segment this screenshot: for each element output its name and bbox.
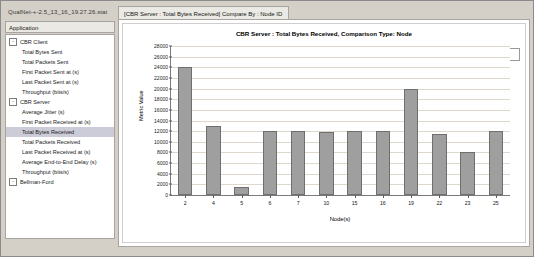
y-tick-label: 6000: [157, 160, 168, 166]
tree-item[interactable]: Total Bytes Received: [6, 127, 114, 137]
y-tick-mark: [169, 131, 172, 132]
tree-item-label: Average Jitter (s): [22, 109, 65, 115]
y-tick-label: 0: [165, 192, 168, 198]
tree-item-label: Total Bytes Sent: [22, 49, 62, 55]
plot-area: 0200040006000800010000120001400016000180…: [170, 46, 510, 196]
tree-item-label: Throughput (bits/s): [22, 89, 69, 95]
y-tick-label: 14000: [154, 118, 168, 124]
y-tick-label: 28000: [154, 43, 168, 49]
y-tick-mark: [169, 195, 172, 196]
tree-item[interactable]: Total Packets Received: [6, 137, 114, 147]
tree-item-label: Total Packets Sent: [22, 59, 68, 65]
x-tick-mark: [411, 195, 412, 198]
x-tick-label: 19: [408, 200, 414, 206]
y-tick-label: 2000: [157, 181, 168, 187]
bar[interactable]: [206, 126, 221, 195]
gridline: [171, 57, 510, 58]
x-tick-label: 10: [323, 200, 329, 206]
tree-item-label: Throughput (bits/s): [22, 169, 69, 175]
tree-item[interactable]: Average End-to-End Delay (s): [6, 157, 114, 167]
tree-item[interactable]: Throughput (bits/s): [6, 87, 114, 97]
tree-item[interactable]: First Packet Received at (s): [6, 117, 114, 127]
y-tick-mark: [169, 46, 172, 47]
tree-item-label: First Packet Received at (s): [22, 119, 91, 125]
x-tick-label: 16: [380, 200, 386, 206]
x-tick-mark: [242, 195, 243, 198]
bar[interactable]: [291, 131, 306, 195]
tree-item[interactable]: -CBR Server: [6, 97, 114, 107]
tree-item[interactable]: -CBR Client: [6, 37, 114, 47]
y-tick-mark: [169, 141, 172, 142]
tree-item-label: Bellman-Ford: [20, 179, 54, 185]
y-axis-title: Metric Value: [138, 90, 144, 121]
y-tick-mark: [169, 109, 172, 110]
gridline: [171, 142, 510, 143]
tree-expander-icon[interactable]: -: [9, 178, 17, 186]
tree-expander-icon[interactable]: -: [9, 98, 17, 106]
bar[interactable]: [347, 131, 362, 195]
tree-item[interactable]: Last Packet Sent at (s): [6, 77, 114, 87]
y-tick-label: 16000: [154, 107, 168, 113]
sidebar-section-header: Application: [5, 21, 115, 33]
x-tick-mark: [468, 195, 469, 198]
tab-label: [CBR Server : Total Bytes Received] Comp…: [124, 11, 282, 17]
y-tick-label: 26000: [154, 54, 168, 60]
tree-item[interactable]: Throughput (bits/s): [6, 167, 114, 177]
tree-item-label: CBR Server: [20, 99, 50, 105]
x-tick-mark: [439, 195, 440, 198]
x-tick-label: 15: [352, 200, 358, 206]
x-tick-label: 22: [436, 200, 442, 206]
bar[interactable]: [432, 134, 447, 195]
gridline: [171, 184, 510, 185]
x-tick-label: 25: [493, 200, 499, 206]
gridline: [171, 152, 510, 153]
sidebar-panel: QualNet-+-2.5_13_16_19.27.26.stat Applic…: [5, 6, 115, 247]
y-tick-label: 22000: [154, 75, 168, 81]
y-tick-label: 4000: [157, 171, 168, 177]
gridline: [171, 121, 510, 122]
bar[interactable]: [489, 131, 504, 195]
tree-item[interactable]: Total Packets Sent: [6, 57, 114, 67]
tree-item[interactable]: First Packet Sent at (s): [6, 67, 114, 77]
x-tick-label: 7: [297, 200, 300, 206]
x-tick-label: 6: [268, 200, 271, 206]
x-tick-mark: [496, 195, 497, 198]
metrics-tree[interactable]: -CBR ClientTotal Bytes SentTotal Packets…: [5, 34, 115, 239]
stat-file-label: QualNet-+-2.5_13_16_19.27.26.stat: [5, 6, 115, 19]
tree-item-label: Total Packets Received: [22, 139, 80, 145]
bar[interactable]: [404, 89, 419, 195]
bar[interactable]: [234, 187, 249, 195]
x-tick-mark: [185, 195, 186, 198]
tree-item-label: Last Packet Received at (s): [22, 149, 90, 155]
tab-cbr-server-total-bytes-received[interactable]: [CBR Server : Total Bytes Received] Comp…: [118, 6, 289, 20]
x-tick-mark: [355, 195, 356, 198]
bar[interactable]: [460, 152, 475, 195]
gridline: [171, 174, 510, 175]
x-tick-mark: [383, 195, 384, 198]
gridline: [171, 131, 510, 132]
gridline: [171, 78, 510, 79]
gridline: [171, 89, 510, 90]
y-tick-label: 8000: [157, 149, 168, 155]
x-tick-label: 4: [212, 200, 215, 206]
gridline: [171, 67, 510, 68]
x-tick-label: 5: [240, 200, 243, 206]
y-tick-mark: [169, 163, 172, 164]
x-axis-title: Node(s): [170, 216, 510, 222]
bar[interactable]: [178, 67, 193, 195]
x-tick-label: 23: [465, 200, 471, 206]
y-tick-mark: [169, 99, 172, 100]
tree-item[interactable]: Total Bytes Sent: [6, 47, 114, 57]
bar[interactable]: [263, 131, 278, 195]
bar[interactable]: [376, 131, 391, 195]
tree-item[interactable]: Last Packet Received at (s): [6, 147, 114, 157]
chart-title: CBR Server : Total Bytes Received, Compa…: [123, 30, 525, 37]
gridline: [171, 110, 510, 111]
tree-item-label: Average End-to-End Delay (s): [22, 159, 97, 165]
tree-expander-icon[interactable]: -: [9, 38, 17, 46]
x-tick-mark: [298, 195, 299, 198]
tree-item-label: Total Bytes Received: [22, 129, 74, 135]
bar[interactable]: [319, 132, 334, 195]
tree-item[interactable]: Average Jitter (s): [6, 107, 114, 117]
tree-item[interactable]: -Bellman-Ford: [6, 177, 114, 187]
